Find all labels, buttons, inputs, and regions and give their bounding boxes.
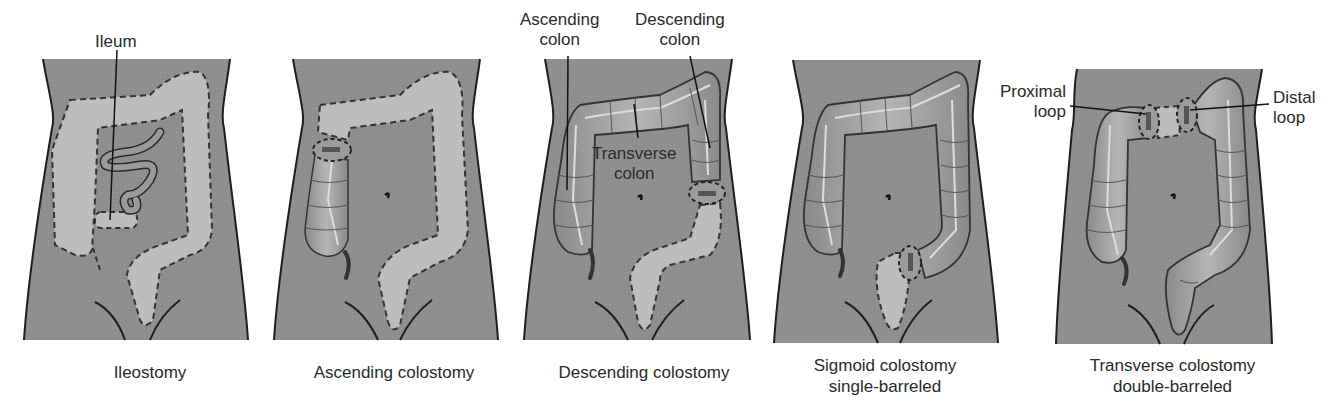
torso-illustration (510, 0, 770, 418)
caption-descending-colostomy: Descending colostomy (510, 362, 778, 383)
label-ileum: Ileum (95, 32, 137, 52)
panel-descending-colostomy: Ascending colon Descending colon Transve… (510, 0, 770, 418)
label-ascending-colon: Ascending colon (520, 10, 599, 50)
caption-transverse-colostomy: Transverse colostomy double-barreled (1010, 355, 1335, 397)
caption-ileostomy: Ileostomy (0, 362, 300, 383)
label-proximal-loop: Proximal loop (986, 82, 1066, 122)
caption-ascending-colostomy: Ascending colostomy (260, 362, 528, 383)
label-transverse-colon: Transverse colon (592, 144, 676, 184)
torso-illustration (0, 0, 270, 418)
label-descending-colon: Descending colon (635, 10, 725, 50)
panel-sigmoid-colostomy: Sigmoid colostomy single-barreled (760, 0, 1020, 418)
torso-illustration (260, 0, 520, 418)
caption-sigmoid-colostomy: Sigmoid colostomy single-barreled (760, 355, 1010, 397)
label-distal-loop: Distal loop (1273, 88, 1316, 128)
ascending-colon-leader (567, 56, 568, 190)
panel-ascending-colostomy: Ascending colostomy (260, 0, 520, 418)
panel-transverse-colostomy: Proximal loop Distal loop Transverse col… (1010, 0, 1342, 418)
panel-ileostomy: Ileum Ileostomy (0, 0, 270, 418)
